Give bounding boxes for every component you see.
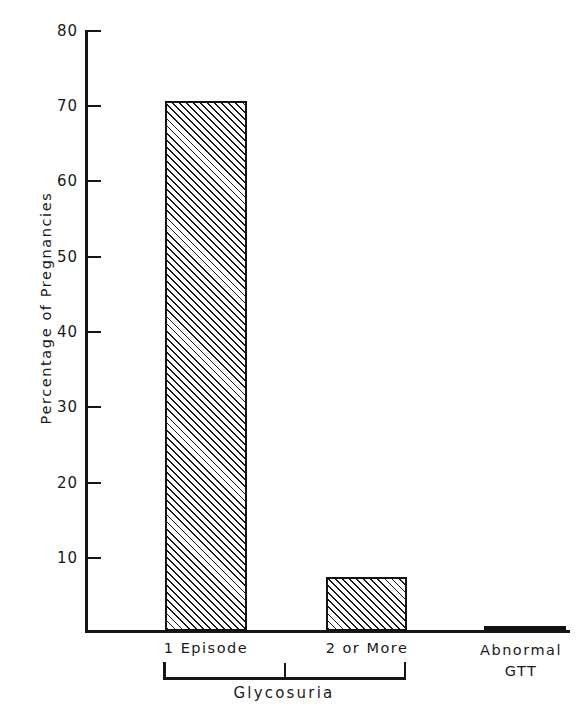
bar-1-episode xyxy=(165,101,247,631)
bar-abnormal-gtt xyxy=(484,626,566,631)
y-tick-label-10-wrap: 10 xyxy=(20,549,78,565)
y-tick-label-40: 40 xyxy=(32,323,78,341)
bar-2-or-more xyxy=(326,577,407,631)
y-tick-label-60: 60 xyxy=(32,172,78,190)
y-tick-label-30: 30 xyxy=(32,398,78,416)
group-label-glycosuria: Glycosuria xyxy=(184,684,384,702)
y-tick-80 xyxy=(88,30,101,32)
group-bracket-left-arm xyxy=(163,662,166,679)
y-tick-50 xyxy=(88,256,101,258)
y-tick-60 xyxy=(88,180,101,182)
group-bracket-center-tick xyxy=(284,663,286,678)
y-tick-70 xyxy=(88,105,101,107)
y-tick-label-10: 10 xyxy=(32,549,78,567)
x-category-label-abnormal-gtt-line2: GTT xyxy=(465,661,577,682)
x-category-label-2-or-more: 2 or More xyxy=(306,640,428,656)
y-tick-label-80-wrap: 80 xyxy=(20,22,78,38)
y-tick-label-70-wrap: 70 xyxy=(20,97,78,113)
x-category-label-abnormal-gtt-line1: Abnormal xyxy=(465,640,577,661)
x-category-label-1-episode: 1 Episode xyxy=(146,640,266,656)
y-tick-label-30-wrap: 30 xyxy=(20,398,78,414)
y-tick-label-20: 20 xyxy=(32,474,78,492)
y-tick-label-80: 80 xyxy=(32,22,78,40)
bar-chart: Percentage of Pregnancies 80 70 60 50 40… xyxy=(0,0,578,711)
y-tick-label-70: 70 xyxy=(32,97,78,115)
x-category-label-abnormal-gtt: Abnormal GTT xyxy=(465,640,577,682)
y-tick-label-20-wrap: 20 xyxy=(20,474,78,490)
y-tick-40 xyxy=(88,331,101,333)
y-tick-label-40-wrap: 40 xyxy=(20,323,78,339)
y-tick-label-50: 50 xyxy=(32,248,78,266)
y-tick-label-50-wrap: 50 xyxy=(20,248,78,264)
group-bracket-right-arm xyxy=(404,662,407,679)
y-tick-20 xyxy=(88,482,101,484)
y-tick-30 xyxy=(88,406,101,408)
y-tick-label-60-wrap: 60 xyxy=(20,172,78,188)
y-tick-10 xyxy=(88,557,101,559)
